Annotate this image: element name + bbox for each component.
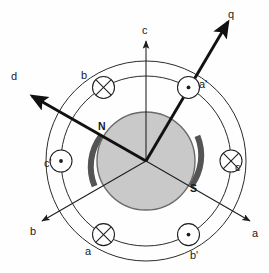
pole-label-north: N (98, 121, 106, 132)
winding-label-c-prime: c' (44, 158, 52, 169)
axis-label-c: c (142, 25, 148, 36)
winding-a-prime[interactable] (178, 76, 200, 98)
pole-label-south: S (190, 183, 197, 194)
winding-a[interactable] (93, 224, 115, 246)
winding-c-prime[interactable] (50, 150, 72, 172)
winding-label-a-prime: a' (199, 79, 207, 90)
winding-label-c: c (235, 162, 241, 173)
axis-label-d: d (11, 71, 17, 82)
winding-label-a: a (85, 246, 91, 257)
winding-label-b: b (81, 70, 87, 81)
diagram-canvas: d q c a b b a' c' c a b' N S (0, 0, 269, 273)
winding-b-prime[interactable] (178, 224, 200, 246)
axis-label-q: q (228, 9, 234, 20)
winding-b[interactable] (93, 76, 115, 98)
axis-label-b: b (30, 226, 36, 237)
machine-cross-section-svg (0, 0, 269, 273)
axis-label-a: a (252, 228, 258, 239)
winding-label-b-prime: b' (190, 250, 198, 261)
